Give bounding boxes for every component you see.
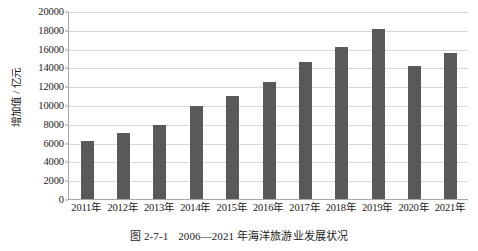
y-axis-tick-label: 4000	[43, 157, 64, 168]
x-axis-tick-label: 2015年	[217, 202, 247, 215]
y-axis-title: 增加值 / 亿元	[12, 37, 23, 157]
bar	[117, 133, 130, 199]
y-axis-tick-label: 10000	[38, 101, 64, 112]
bar	[81, 141, 94, 199]
x-axis-tick-label: 2016年	[253, 202, 283, 215]
figure-container: 增加值 / 亿元 0200040006000800010000120001400…	[0, 0, 478, 251]
caption-title: 2006—2021 年海洋旅游业发展状况	[178, 230, 348, 242]
bar	[299, 62, 312, 199]
y-axis-tick-label: 20000	[38, 7, 64, 18]
bar	[226, 96, 239, 199]
y-axis-tick-label: 18000	[38, 26, 64, 37]
x-axis-tick-label: 2014年	[180, 202, 210, 215]
x-axis-tick-label: 2021年	[435, 202, 465, 215]
y-axis-tick-label: 16000	[38, 44, 64, 55]
bar	[444, 53, 457, 199]
x-axis-tick-label: 2011年	[71, 202, 101, 215]
plot-area	[68, 12, 468, 200]
x-axis-tick-label: 2012年	[108, 202, 138, 215]
y-axis-tick-label: 8000	[43, 120, 64, 131]
y-axis-tick-label: 14000	[38, 63, 64, 74]
caption-figure-number: 图 2-7-1	[130, 230, 168, 242]
bar-series	[69, 12, 468, 199]
x-axis-tick-labels: 2011年2012年2013年2014年2015年2016年2017年2018年…	[68, 202, 468, 220]
bar-chart: 增加值 / 亿元 0200040006000800010000120001400…	[0, 4, 478, 226]
y-axis-tick-labels: 0200040006000800010000120001400016000180…	[24, 12, 68, 200]
figure-caption: 图 2-7-12006—2021 年海洋旅游业发展状况	[0, 230, 478, 243]
x-axis-tick-label: 2017年	[289, 202, 319, 215]
bar	[408, 66, 421, 199]
x-axis-tick-label: 2020年	[398, 202, 428, 215]
y-axis-tick-label: 2000	[43, 176, 64, 187]
bar	[263, 82, 276, 200]
y-axis-tick-label: 12000	[38, 82, 64, 93]
bar	[153, 125, 166, 199]
bar	[190, 106, 203, 199]
x-axis-tick-label: 2019年	[362, 202, 392, 215]
y-axis-tick-label: 6000	[43, 138, 64, 149]
bar	[335, 47, 348, 199]
bar	[372, 29, 385, 199]
x-axis-tick-label: 2018年	[326, 202, 356, 215]
y-axis-tick-label: 0	[59, 195, 64, 206]
x-axis-tick-label: 2013年	[144, 202, 174, 215]
